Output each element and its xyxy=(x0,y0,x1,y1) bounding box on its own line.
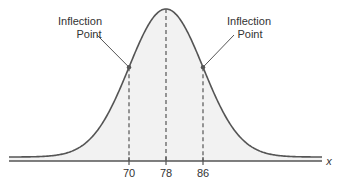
normal-distribution-chart: Inflection Point Inflection Point 70 78 … xyxy=(0,0,343,187)
inflection-left-label-line2: Point xyxy=(76,28,101,40)
x-tick-label-70: 70 xyxy=(123,167,135,179)
x-axis-variable-label: x xyxy=(325,155,332,167)
x-tick-label-86: 86 xyxy=(197,167,209,179)
inflection-right-label-line1: Inflection xyxy=(227,15,271,27)
inflection-left-leader-line xyxy=(97,35,129,67)
inflection-left-label-line1: Inflection xyxy=(58,15,102,27)
x-tick-label-78: 78 xyxy=(160,167,172,179)
inflection-right-leader-line xyxy=(203,35,234,67)
inflection-right-label-line2: Point xyxy=(237,28,262,40)
